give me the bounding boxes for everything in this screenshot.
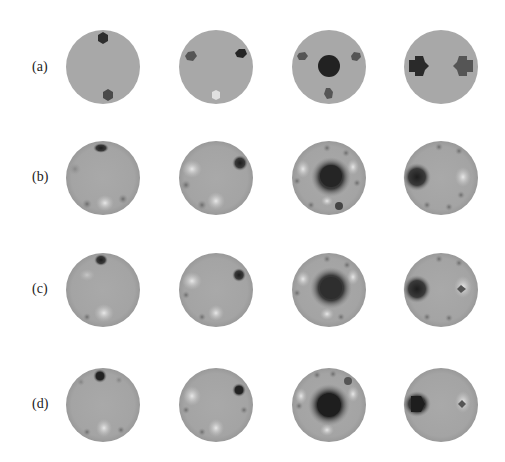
- panel-b4: [403, 139, 479, 217]
- panel-c1: [65, 251, 141, 329]
- row-label-c: (c): [32, 281, 48, 297]
- panel-c3: [291, 251, 367, 329]
- panel-b3: [291, 139, 367, 217]
- row-label-d: (d): [32, 396, 48, 412]
- panel-a2: [178, 28, 254, 106]
- panel-a3: [291, 28, 367, 106]
- panel-d4: [403, 366, 479, 444]
- panel-d2: [178, 366, 254, 444]
- row-label-b: (b): [32, 169, 48, 185]
- panel-d3: [291, 366, 367, 444]
- row-label-a: (a): [32, 59, 48, 75]
- panel-b2: [178, 139, 254, 217]
- panel-c4: [403, 251, 479, 329]
- panel-a4: [403, 28, 479, 106]
- panel-a1: [65, 28, 141, 106]
- panel-d1: [65, 366, 141, 444]
- panel-c2: [178, 251, 254, 329]
- panel-b1: [65, 139, 141, 217]
